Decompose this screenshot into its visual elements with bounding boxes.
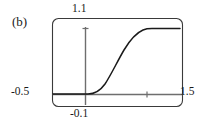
x-axis-origin-label: -0.1 [70, 108, 88, 120]
y-axis-max-label: 1.1 [72, 3, 86, 15]
x-axis-min-label: -0.5 [11, 86, 29, 98]
plot-canvas [0, 0, 200, 123]
x-axis-max-label: 1.5 [180, 86, 194, 98]
figure-panel: (b) 1.1 -0.5 -0.1 1.5 [0, 0, 200, 123]
